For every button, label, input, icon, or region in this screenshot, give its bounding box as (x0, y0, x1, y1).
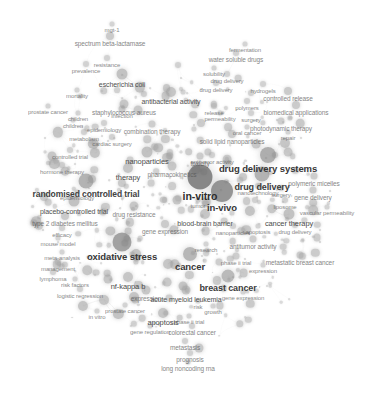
network-node[interactable] (75, 88, 80, 93)
network-node[interactable] (75, 190, 80, 195)
network-node-minor (220, 285, 227, 292)
network-node[interactable] (248, 110, 254, 116)
network-node[interactable] (245, 125, 250, 130)
network-node[interactable] (83, 61, 89, 67)
network-node[interactable] (71, 118, 76, 123)
network-node[interactable] (56, 236, 61, 241)
network-node-minor (122, 199, 124, 201)
network-node[interactable] (255, 167, 270, 182)
network-node[interactable] (211, 180, 233, 202)
network-node[interactable] (261, 263, 266, 268)
network-node[interactable] (183, 247, 197, 261)
network-node[interactable] (110, 22, 115, 27)
network-node[interactable] (282, 197, 288, 203)
network-node[interactable] (311, 173, 318, 180)
network-node[interactable] (222, 270, 235, 283)
network-node[interactable] (241, 290, 246, 295)
network-node-minor (248, 90, 254, 96)
network-node[interactable] (286, 130, 291, 135)
network-node[interactable] (77, 286, 83, 292)
network-node[interactable] (149, 121, 156, 128)
network-node[interactable] (81, 129, 87, 135)
network-node[interactable] (224, 71, 230, 77)
network-node[interactable] (113, 233, 132, 252)
network-node-minor (137, 304, 139, 306)
network-node[interactable] (101, 120, 107, 126)
network-map-canvas[interactable]: in-vitroin-vivooxidative stressdrug deli… (0, 0, 379, 397)
network-node[interactable] (104, 55, 110, 61)
network-node[interactable] (142, 147, 153, 158)
network-node[interactable] (228, 130, 236, 138)
network-node[interactable] (243, 42, 248, 47)
network-node[interactable] (188, 165, 213, 190)
network-node[interactable] (69, 196, 80, 207)
network-node[interactable] (325, 205, 330, 210)
network-node[interactable] (200, 209, 210, 219)
network-node[interactable] (233, 50, 239, 56)
network-node[interactable] (310, 187, 317, 194)
network-node[interactable] (278, 185, 284, 191)
network-node[interactable] (106, 32, 114, 40)
network-node[interactable] (292, 222, 298, 228)
network-node[interactable] (292, 101, 300, 109)
network-node[interactable] (213, 80, 219, 86)
network-node[interactable] (123, 303, 128, 308)
network-node[interactable] (186, 360, 191, 365)
network-node-minor (156, 134, 158, 136)
network-node[interactable] (76, 111, 81, 116)
network-node[interactable] (182, 338, 188, 344)
network-node[interactable] (73, 277, 78, 282)
network-node[interactable] (211, 304, 216, 309)
network-node[interactable] (50, 269, 56, 275)
network-node[interactable] (211, 103, 217, 109)
network-node[interactable] (212, 66, 217, 71)
network-node-minor (157, 153, 159, 155)
network-node[interactable] (95, 309, 100, 314)
network-node[interactable] (55, 259, 61, 265)
network-node[interactable] (123, 163, 133, 173)
network-node[interactable] (260, 147, 276, 163)
network-node[interactable] (218, 111, 223, 116)
network-node[interactable] (59, 225, 65, 231)
network-node[interactable] (158, 308, 168, 318)
network-node-minor (92, 123, 99, 130)
network-node[interactable] (256, 224, 261, 229)
network-node[interactable] (297, 252, 304, 259)
network-node[interactable] (284, 87, 292, 95)
network-node[interactable] (187, 314, 192, 319)
network-node[interactable] (250, 236, 257, 243)
network-node[interactable] (46, 104, 51, 109)
network-node[interactable] (204, 242, 209, 247)
network-node[interactable] (197, 153, 204, 160)
network-node[interactable] (60, 250, 65, 255)
network-node[interactable] (187, 350, 193, 356)
network-node[interactable] (166, 87, 176, 97)
network-node[interactable] (67, 147, 73, 153)
network-node-minor (237, 177, 243, 183)
network-node[interactable] (196, 198, 201, 203)
network-node[interactable] (182, 286, 191, 295)
network-node[interactable] (209, 152, 215, 158)
network-node[interactable] (61, 212, 69, 220)
network-node[interactable] (120, 100, 129, 109)
network-node[interactable] (109, 134, 115, 140)
network-node[interactable] (260, 81, 266, 87)
network-node[interactable] (130, 202, 139, 211)
network-node[interactable] (284, 209, 295, 220)
network-node[interactable] (123, 272, 133, 282)
network-node[interactable] (168, 162, 177, 171)
network-node[interactable] (244, 98, 250, 104)
network-node[interactable] (255, 183, 261, 189)
network-node[interactable] (148, 324, 153, 329)
network-node[interactable] (142, 286, 151, 295)
network-node[interactable] (59, 162, 65, 168)
network-node-minor (229, 210, 234, 215)
network-node[interactable] (278, 118, 285, 125)
network-node[interactable] (79, 174, 94, 189)
network-node[interactable] (233, 253, 240, 260)
network-node[interactable] (189, 323, 195, 329)
network-node[interactable] (161, 220, 169, 228)
network-node[interactable] (230, 223, 236, 229)
network-node[interactable] (196, 299, 201, 304)
network-node[interactable] (117, 69, 128, 80)
